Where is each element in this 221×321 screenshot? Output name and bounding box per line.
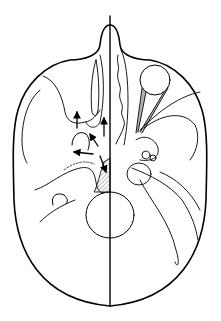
left-jugular-bump xyxy=(52,194,67,205)
arrow-left xyxy=(74,152,93,154)
skull-base-diagram xyxy=(0,0,221,321)
left-sella-curve xyxy=(72,133,89,150)
right-posterior-line xyxy=(140,180,178,265)
right-petrous-blob xyxy=(136,137,158,160)
right-sigmoid-line2 xyxy=(160,172,200,210)
right-sigmoid-line xyxy=(132,168,198,240)
right-small-circle-1 xyxy=(142,151,150,159)
right-small-circle-2 xyxy=(150,155,156,161)
left-lateral-wall xyxy=(22,90,40,163)
arrow-diag xyxy=(90,134,98,146)
right-cribriform-wavy xyxy=(116,55,124,144)
right-jugular-oval xyxy=(127,163,151,185)
right-lateral-curve xyxy=(144,116,198,160)
left-posterior-fossa-line xyxy=(40,200,75,222)
left-petrous-ridge xyxy=(35,168,104,193)
left-cribriform xyxy=(91,60,99,116)
